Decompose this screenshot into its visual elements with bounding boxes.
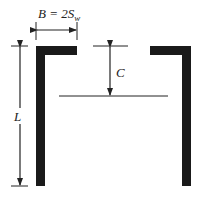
length-label: L bbox=[13, 109, 21, 124]
right-wall bbox=[150, 46, 191, 186]
channel-diagram: B = 2Sw L C bbox=[0, 0, 200, 205]
width-dimension: B = 2Sw bbox=[36, 6, 80, 40]
left-wall bbox=[36, 46, 77, 186]
length-dimension: L bbox=[11, 46, 28, 186]
width-label: B = 2Sw bbox=[38, 6, 80, 23]
clearance-label: C bbox=[116, 65, 125, 80]
